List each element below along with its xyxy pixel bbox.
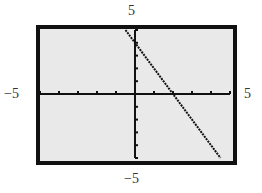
graphing-calculator-figure: 5 −5 −5 5 bbox=[0, 0, 262, 193]
plot-area bbox=[0, 0, 262, 193]
axes bbox=[40, 30, 230, 158]
